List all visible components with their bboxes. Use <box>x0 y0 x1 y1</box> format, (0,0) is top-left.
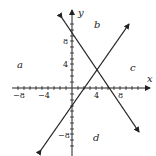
y-tick-label: 4 <box>63 60 68 69</box>
x-axis-ticks <box>18 86 138 90</box>
coordinate-diagram: −8 −4 4 8 8 4 −8 x y a b c d <box>0 0 156 156</box>
y-tick-label: −8 <box>58 131 70 140</box>
x-tick-label: −4 <box>38 91 50 100</box>
region-label-d: d <box>93 132 99 143</box>
region-label-b: b <box>94 19 100 30</box>
y-axis-label: y <box>77 7 84 18</box>
region-label-c: c <box>130 62 136 73</box>
x-tick-label: −8 <box>13 91 25 100</box>
decreasing-line <box>62 18 139 132</box>
x-axis-label: x <box>147 73 153 84</box>
y-tick-label: 8 <box>63 37 68 46</box>
x-tick-label: 8 <box>118 91 123 100</box>
region-label-a: a <box>17 59 23 70</box>
x-tick-label: 4 <box>94 91 99 100</box>
